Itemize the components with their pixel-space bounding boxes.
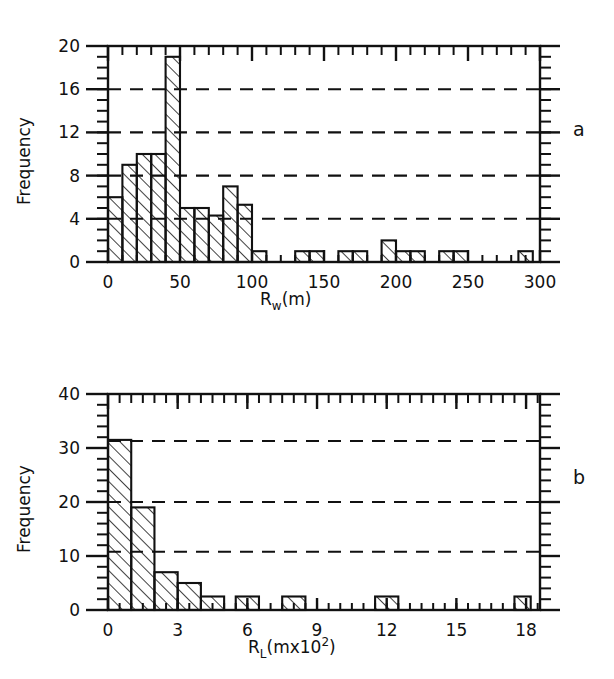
x-tick-label: 0	[103, 272, 114, 292]
x-tick-label: 150	[308, 272, 340, 292]
x-tick-label: 200	[380, 272, 412, 292]
chart-a-plot-area: 050100150200250300048121620	[58, 36, 560, 292]
x-tick-label: 18	[515, 620, 537, 640]
histogram-bar	[166, 57, 180, 262]
chart-a-xlabel-base: R	[260, 289, 272, 309]
svg-text:RL(mx102): RL(mx102)	[248, 635, 336, 661]
y-tick-label: 12	[58, 122, 80, 142]
x-tick-label: 15	[446, 620, 468, 640]
histogram-bar	[137, 154, 151, 262]
chart-a-xlabel-tail: (m)	[282, 289, 312, 309]
y-tick-label: 20	[58, 36, 80, 56]
chart-a-xlabel-sub: w	[272, 299, 282, 313]
histogram-bar	[180, 208, 194, 262]
y-tick-label: 0	[69, 600, 80, 620]
panel-letter-a: a	[573, 118, 585, 140]
figure-page: Frequency 050100150200250300048121620 Rw…	[0, 0, 614, 679]
chart-b-xlabel-tail2: )	[329, 637, 336, 657]
chart-a-xlabel: Rw(m)	[260, 289, 311, 313]
chart-b-xlabel: RL(mx102)	[248, 635, 336, 661]
x-tick-label: 50	[169, 272, 191, 292]
svg-text:Rw(m): Rw(m)	[260, 289, 311, 313]
chart-b-plot-area: 0369121518010203040	[58, 384, 560, 640]
histogram-bar	[238, 205, 252, 262]
x-tick-label: 250	[452, 272, 484, 292]
histogram-bar	[252, 251, 266, 262]
histogram-bar	[396, 251, 410, 262]
histogram-bar	[131, 507, 154, 610]
y-tick-label: 40	[58, 384, 80, 404]
y-tick-label: 30	[58, 438, 80, 458]
x-tick-label: 300	[524, 272, 556, 292]
histogram-bar	[295, 251, 309, 262]
y-tick-label: 20	[58, 492, 80, 512]
histogram-bar	[223, 186, 237, 262]
chart-a-ylabel: Frequency	[14, 117, 34, 205]
panel-b: Frequency 0369121518010203040 RL(mx102) …	[0, 348, 560, 679]
histogram-bar	[108, 197, 122, 262]
histogram-bar	[310, 251, 324, 262]
histogram-bar	[122, 165, 136, 262]
chart-b-xlabel-base: R	[248, 637, 260, 657]
y-tick-label: 4	[69, 209, 80, 229]
histogram-bar	[382, 240, 396, 262]
x-tick-label: 12	[376, 620, 398, 640]
histogram-bar	[454, 251, 468, 262]
chart-b-xlabel-sup: 2	[321, 635, 329, 649]
histogram-bar	[151, 154, 165, 262]
chart-b-ylabel: Frequency	[14, 465, 34, 553]
histogram-bar	[410, 251, 424, 262]
y-tick-label: 0	[69, 252, 80, 272]
histogram-bar	[209, 216, 223, 262]
x-tick-label: 0	[103, 620, 114, 640]
histogram-bar	[514, 597, 530, 611]
y-tick-label: 16	[58, 79, 80, 99]
histogram-bar	[439, 251, 453, 262]
chart-b-xlabel-tail: (mx10	[267, 637, 322, 657]
panel-letter-b: b	[573, 466, 585, 488]
histogram-bar	[338, 251, 352, 262]
histogram-bar	[353, 251, 367, 262]
y-tick-label: 10	[58, 546, 80, 566]
histogram-bar	[194, 208, 208, 262]
x-tick-label: 3	[172, 620, 183, 640]
y-tick-label: 8	[69, 166, 80, 186]
chart-a-svg: Frequency 050100150200250300048121620 Rw…	[0, 0, 560, 330]
chart-b-svg: Frequency 0369121518010203040 RL(mx102)	[0, 348, 560, 679]
histogram-bar	[108, 440, 131, 610]
panel-a: Frequency 050100150200250300048121620 Rw…	[0, 0, 560, 330]
